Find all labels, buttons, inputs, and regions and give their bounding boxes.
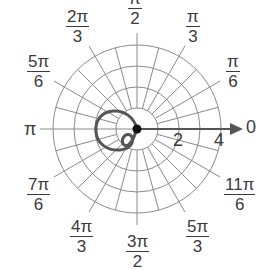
- angle-label-2pi-over-3: 2π3: [66, 8, 89, 45]
- angle-label-pi-over-6: π6: [226, 53, 240, 90]
- axis-label-4: 4: [214, 130, 224, 151]
- angle-label-11pi-over-6: 11π6: [224, 176, 255, 213]
- radial-line: [148, 147, 186, 212]
- angle-label-4pi-over-3: 4π3: [70, 218, 93, 255]
- radial-line: [115, 149, 131, 210]
- angle-label-3pi-over-2: 3π2: [126, 233, 149, 270]
- radial-line: [142, 149, 158, 210]
- angle-label-5pi-over-3: 5π3: [186, 218, 209, 255]
- angle-label-7pi-over-6: 7π6: [27, 176, 50, 213]
- radial-line: [54, 140, 119, 178]
- radial-line: [142, 48, 158, 109]
- radial-line: [115, 48, 131, 109]
- radial-line: [155, 140, 220, 178]
- angle-label-pi: π: [24, 119, 36, 140]
- radial-line: [155, 81, 220, 119]
- angle-label-pi-over-3: π3: [186, 8, 200, 45]
- arrowhead-icon: [230, 123, 243, 135]
- radial-line: [89, 147, 127, 212]
- radial-line: [89, 46, 127, 111]
- angle-label-5pi-over-6: 5π6: [27, 53, 50, 90]
- radial-line: [157, 134, 218, 150]
- pole-dot: [133, 125, 142, 134]
- angle-label-0: 0: [246, 117, 256, 138]
- radial-line: [148, 46, 186, 111]
- angle-label-pi-over-2: π2: [128, 0, 142, 27]
- axis-label-2: 2: [173, 130, 183, 151]
- radial-line: [157, 107, 218, 123]
- radial-line: [56, 107, 117, 123]
